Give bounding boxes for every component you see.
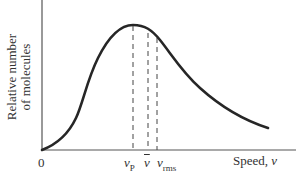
y-axis-label-line1: Relative number — [5, 34, 19, 120]
vrms-label-sub: rms — [163, 163, 177, 173]
x-axis-label-var: v — [271, 153, 277, 168]
x-axis-label-main: Speed, — [233, 153, 271, 168]
origin-label: 0 — [38, 155, 45, 171]
vrms-label: vrms — [157, 155, 176, 173]
vp-label-sub: P — [130, 163, 135, 173]
vp-label: vP — [124, 155, 135, 173]
vavg-label: v — [144, 155, 150, 171]
x-axis-label: Speed, v — [233, 153, 277, 169]
vavg-label-main: v — [144, 155, 150, 170]
distribution-curve — [42, 25, 268, 150]
y-axis-label-line2: of molecules — [19, 34, 33, 120]
y-axis-label: Relative number of molecules — [4, 22, 34, 132]
